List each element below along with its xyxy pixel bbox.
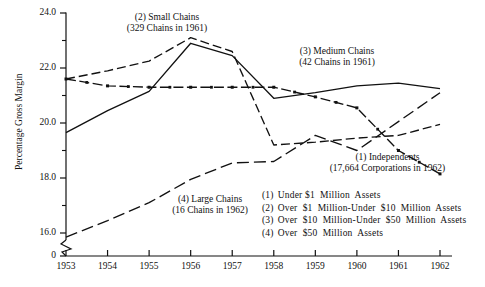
x-tick-label: 1961 bbox=[378, 261, 418, 272]
legend-label: Under $1 Million Assets bbox=[278, 190, 467, 203]
annotation-medium-chains: (3) Medium Chains(42 Chains in 1961) bbox=[262, 46, 412, 68]
x-tick-label: 1954 bbox=[88, 261, 128, 272]
y-tick-label: 0 bbox=[0, 250, 56, 261]
annotation-independents: (1) Independents(17,664 Corporations in … bbox=[300, 152, 475, 174]
y-tick-label: 16.0 bbox=[0, 227, 56, 238]
legend-index: (1) bbox=[262, 190, 278, 203]
y-tick-label: 22.0 bbox=[0, 62, 56, 73]
legend-row: (2)Over $1 Million-Under $10 Million Ass… bbox=[262, 203, 466, 216]
series-marker-mid-independents bbox=[127, 85, 130, 88]
series-marker-independents bbox=[272, 86, 275, 89]
legend-label: Over $1 Million-Under $10 Million Assets bbox=[278, 203, 467, 216]
x-tick-label: 1960 bbox=[337, 261, 377, 272]
legend-index: (4) bbox=[262, 228, 278, 241]
legend-row: (3)Over $10 Million-Under $50 Million As… bbox=[262, 215, 466, 228]
x-tick-label: 1959 bbox=[295, 261, 335, 272]
series-marker-mid-independents bbox=[252, 86, 255, 89]
series-marker-independents bbox=[106, 84, 109, 87]
x-tick-label: 1957 bbox=[212, 261, 252, 272]
annotation-line-2: (42 Chains in 1961) bbox=[262, 57, 412, 68]
series-marker-independents bbox=[314, 95, 317, 98]
series-marker-mid-independents bbox=[293, 91, 296, 94]
annotation-line-1: (2) Small Chains bbox=[92, 12, 242, 23]
annotation-line-2: (17,664 Corporations in 1962) bbox=[300, 163, 475, 174]
y-tick-label: 18.0 bbox=[0, 172, 56, 183]
x-tick-label: 1962 bbox=[420, 261, 460, 272]
chart-figure: (2) Small Chains(329 Chains in 1961) (3)… bbox=[0, 0, 485, 287]
y-tick-label: 24.0 bbox=[0, 7, 56, 18]
legend: (1)Under $1 Million Assets(2)Over $1 Mil… bbox=[262, 190, 466, 241]
x-tick-label: 1953 bbox=[46, 261, 86, 272]
series-marker-independents bbox=[231, 86, 234, 89]
legend-index: (2) bbox=[262, 203, 278, 216]
legend-row: (4)Over $50 Million Assets bbox=[262, 228, 466, 241]
annotation-line-1: (1) Independents bbox=[300, 152, 475, 163]
annotation-line-1: (3) Medium Chains bbox=[262, 46, 412, 57]
series-marker-independents bbox=[189, 86, 192, 89]
series-marker-independents bbox=[148, 86, 151, 89]
series-marker-mid-independents bbox=[376, 128, 379, 131]
legend-row: (1)Under $1 Million Assets bbox=[262, 190, 466, 203]
annotation-line-1: (4) Large Chains bbox=[150, 194, 270, 205]
series-marker-mid-independents bbox=[210, 86, 213, 89]
x-tick-label: 1955 bbox=[129, 261, 169, 272]
legend-label: Over $50 Million Assets bbox=[278, 228, 467, 241]
series-marker-mid-independents bbox=[335, 101, 338, 104]
annotation-large-chains: (4) Large Chains(16 Chains in 1962) bbox=[150, 194, 270, 216]
x-tick-label: 1958 bbox=[254, 261, 294, 272]
series-marker-mid-independents bbox=[168, 86, 171, 89]
annotation-line-2: (16 Chains in 1962) bbox=[150, 205, 270, 216]
y-tick-label: 20.0 bbox=[0, 117, 56, 128]
legend-label: Over $10 Million-Under $50 Million Asset… bbox=[278, 215, 467, 228]
series-marker-independents bbox=[355, 106, 358, 109]
chart-plot-area bbox=[0, 0, 485, 287]
annotation-line-2: (329 Chains in 1961) bbox=[92, 23, 242, 34]
x-tick-label: 1956 bbox=[171, 261, 211, 272]
series-marker-mid-independents bbox=[85, 81, 88, 84]
annotation-small-chains: (2) Small Chains(329 Chains in 1961) bbox=[92, 12, 242, 34]
legend-index: (3) bbox=[262, 215, 278, 228]
